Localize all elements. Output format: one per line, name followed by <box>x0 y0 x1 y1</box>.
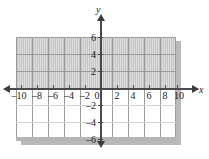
y-tick <box>98 105 103 106</box>
y-tick-label: –4 <box>78 118 96 128</box>
x-tick-label: –10 <box>8 91 30 101</box>
graph-figure: –10 –8 –6 –4 –2 0 2 4 6 8 10 6 4 2 –2 –4… <box>0 0 209 159</box>
x-tick-label: 4 <box>126 91 140 101</box>
x-axis-right-arrow-icon <box>192 85 199 93</box>
y-axis-down-arrow-icon <box>97 141 105 148</box>
y-axis-up-arrow-icon <box>97 14 105 21</box>
x-tick-label: –4 <box>61 91 77 101</box>
y-tick <box>98 139 103 140</box>
y-tick <box>98 54 103 55</box>
y-axis-label: y <box>96 4 100 15</box>
x-tick-label: 2 <box>110 91 124 101</box>
y-tick <box>98 122 103 123</box>
x-tick-label: 6 <box>142 91 156 101</box>
y-tick-label: 6 <box>78 33 96 43</box>
y-tick-label: 4 <box>78 50 96 60</box>
y-tick-label: –2 <box>78 101 96 111</box>
x-tick-label: 10 <box>170 91 188 101</box>
y-tick <box>98 71 103 72</box>
gridline-h <box>16 105 176 106</box>
gridline-h <box>16 71 176 72</box>
x-tick-label: –8 <box>29 91 45 101</box>
y-tick-label: 2 <box>78 67 96 77</box>
gridline-h <box>16 122 176 123</box>
x-tick-label: –6 <box>45 91 61 101</box>
gridline-h <box>16 54 176 55</box>
x-axis-label: x <box>199 84 203 95</box>
y-tick <box>98 37 103 38</box>
bottom-edge-bar <box>16 137 176 141</box>
gridline-h <box>16 37 176 38</box>
y-tick-label: –6 <box>78 135 96 145</box>
